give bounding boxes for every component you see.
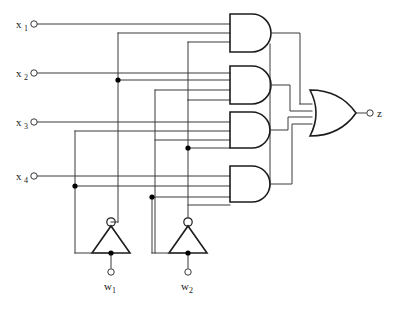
inverter-2-body xyxy=(169,226,207,253)
input-terminal-x3[interactable] xyxy=(31,119,37,125)
inverter-1[interactable] xyxy=(75,218,130,268)
output-terminal-w1[interactable] xyxy=(108,269,114,275)
input-terminal-x4[interactable] xyxy=(31,173,37,179)
wire-and1-out-to-or xyxy=(271,33,300,104)
input-label-x4: x xyxy=(16,170,22,182)
junction-dot-x3 xyxy=(185,145,190,150)
junction-dot-inv2-out xyxy=(185,250,190,255)
junction-dot-x4-right xyxy=(149,194,154,199)
junction-dots-group xyxy=(72,77,190,255)
output-sublabel-w1: 1 xyxy=(112,286,116,295)
wire-and2-out-to-or xyxy=(271,85,312,111)
output-label-w1: w xyxy=(104,280,112,292)
output-sublabel-w2: 2 xyxy=(189,286,193,295)
and-gate-4[interactable] xyxy=(230,124,312,202)
input-label-x3: x xyxy=(16,116,22,128)
and-gate-1-body xyxy=(230,14,271,52)
output-label-z: z xyxy=(377,107,382,119)
input-sublabel-x4: 4 xyxy=(24,176,28,185)
and-gate-4-body xyxy=(230,166,270,202)
junction-dot-inv1-out xyxy=(108,250,113,255)
wire-and4-out-to-or xyxy=(270,124,312,184)
input-label-x2: x xyxy=(16,67,22,79)
output-terminal-z-group: z xyxy=(367,107,382,119)
junction-dot-x2 xyxy=(115,77,120,82)
inverter-2[interactable] xyxy=(152,218,207,268)
junction-dot-x4-left xyxy=(72,183,77,188)
or-gate-1-body xyxy=(310,90,356,136)
input-sublabel-x3: 3 xyxy=(24,122,28,131)
inverter-1-body xyxy=(92,226,130,253)
input-terminal-x2[interactable] xyxy=(31,70,37,76)
or-gate-1[interactable] xyxy=(310,90,366,136)
and-gate-2-body xyxy=(230,66,271,104)
output-label-w2: w xyxy=(181,280,189,292)
output-terminals-w-group: w 1 w 2 xyxy=(104,269,193,295)
output-terminal-w2[interactable] xyxy=(185,269,191,275)
and-gate-3[interactable] xyxy=(230,112,312,148)
input-terminal-x1[interactable] xyxy=(31,21,37,27)
input-terminals-group: x 1 x 2 x 3 x 4 xyxy=(16,18,37,185)
input-label-x1: x xyxy=(16,18,22,30)
input-sublabel-x2: 2 xyxy=(24,73,28,82)
input-sublabel-x1: 1 xyxy=(24,24,28,33)
logic-circuit-diagram: x 1 x 2 x 3 x 4 xyxy=(0,0,395,309)
and-gate-3-body xyxy=(230,112,270,148)
circuit-canvas: x 1 x 2 x 3 x 4 xyxy=(0,0,395,309)
output-terminal-z[interactable] xyxy=(367,110,373,116)
